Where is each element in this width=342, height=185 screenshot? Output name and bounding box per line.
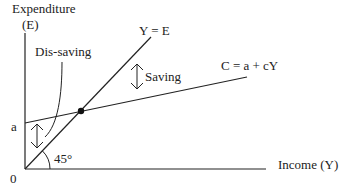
angle-label: 45° xyxy=(54,152,72,165)
y-axis-label-line2: (E) xyxy=(22,18,39,31)
dissaving-arrow xyxy=(31,124,43,148)
saving-label: Saving xyxy=(145,70,181,83)
line-y-equals-e-label: Y = E xyxy=(139,24,170,37)
y-axis-label-line1: Expenditure xyxy=(12,2,76,15)
intercept-label: a xyxy=(11,120,17,133)
line-consumption xyxy=(25,77,247,123)
saving-arrow xyxy=(131,64,143,89)
consumption-line-label: C = a + cY xyxy=(221,59,278,72)
dissaving-label: Dis-saving xyxy=(35,45,91,58)
x-axis-label: Income (Y) xyxy=(278,158,338,171)
angle-arc xyxy=(43,151,51,169)
keynesian-cross-diagram: Expenditure (E) Y = E Dis-saving Saving … xyxy=(0,0,342,185)
origin-label: 0 xyxy=(10,172,17,185)
dissaving-leader-curve xyxy=(45,62,62,137)
equilibrium-point xyxy=(78,108,84,114)
